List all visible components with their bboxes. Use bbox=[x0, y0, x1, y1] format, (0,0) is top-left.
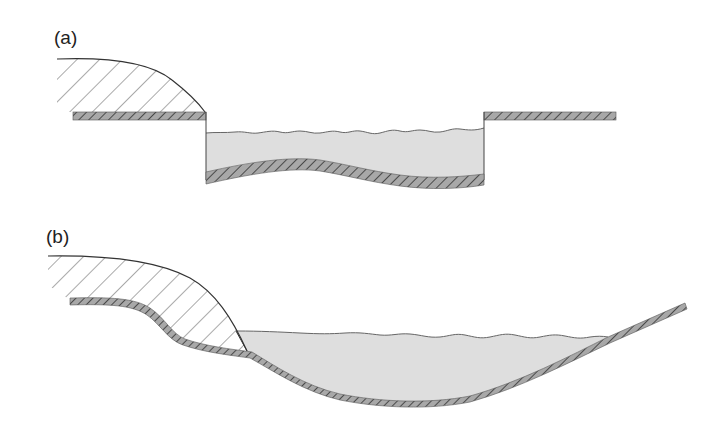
panel-a bbox=[57, 59, 616, 189]
left-bank-ground-a bbox=[73, 112, 206, 120]
right-bank-ground-a bbox=[484, 112, 616, 120]
panel-b bbox=[48, 256, 687, 407]
diagram-canvas bbox=[0, 0, 724, 425]
landslide-mass-a bbox=[57, 59, 205, 112]
